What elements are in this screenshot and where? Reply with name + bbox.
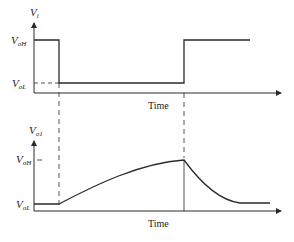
bottom-y-axis-label: Vo1 xyxy=(29,124,43,138)
input-voltage-plot: Vi VoH VoL Time xyxy=(11,6,281,111)
bottom-voh-label: VoH xyxy=(16,153,32,167)
bottom-vol-label: VoL xyxy=(16,198,30,212)
top-y-axis-label: Vi xyxy=(30,6,39,20)
top-x-axis-label: Time xyxy=(148,100,169,111)
top-vol-label: VoL xyxy=(12,77,26,91)
top-voh-label: VoH xyxy=(11,34,27,48)
timing-diagram: Vi VoH VoL Time Vo1 VoH VoL Time xyxy=(0,0,294,242)
input-square-wave xyxy=(34,40,250,83)
bottom-x-axis-label: Time xyxy=(148,218,169,229)
output-rc-curve xyxy=(34,160,270,204)
output-voltage-plot: Vo1 VoH VoL Time xyxy=(16,124,281,229)
